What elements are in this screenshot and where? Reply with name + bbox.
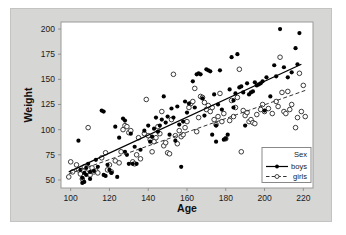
data-point-girls (235, 95, 240, 100)
data-point-boys (191, 79, 195, 83)
data-point-girls (134, 153, 139, 158)
data-point-girls (216, 114, 221, 119)
data-point-girls (253, 121, 258, 126)
data-point-girls (295, 115, 300, 120)
data-point-boys (84, 173, 88, 177)
data-point-girls (227, 118, 232, 123)
data-point-boys (278, 27, 282, 31)
data-point-girls (150, 149, 155, 154)
data-point-girls (239, 149, 244, 154)
data-point-boys (193, 105, 197, 109)
data-point-boys (135, 162, 139, 166)
data-point-boys (109, 171, 113, 175)
data-point-boys (127, 162, 131, 166)
y-tick-label: 125 (41, 99, 55, 109)
y-axis-tick-labels: 5075100125150175200 (41, 24, 55, 185)
data-point-boys (229, 55, 233, 59)
data-point-boys (88, 177, 92, 181)
data-point-boys (262, 108, 266, 112)
data-point-boys (251, 89, 255, 93)
data-point-girls (220, 119, 225, 124)
legend-entry-girls[interactable]: girls (293, 172, 307, 181)
data-point-girls (96, 171, 101, 176)
data-point-boys (220, 107, 224, 111)
y-tick-label: 50 (46, 175, 56, 185)
data-point-girls (237, 67, 242, 72)
legend-entry-boys[interactable]: boys (291, 162, 307, 171)
scatter-plot: 5075100125150175200 10012014016018020022… (0, 0, 346, 235)
data-point-girls (218, 91, 223, 96)
data-point-boys (162, 94, 166, 98)
data-point-girls (303, 114, 308, 119)
data-point-boys (82, 180, 86, 184)
data-point-boys (129, 132, 133, 136)
y-axis-title: Weight (22, 87, 34, 122)
data-point-boys (80, 176, 84, 180)
data-point-boys (167, 133, 171, 137)
data-point-girls (222, 111, 227, 116)
x-axis-title: Age (177, 202, 197, 214)
data-point-boys (103, 174, 107, 178)
data-point-girls (266, 106, 271, 111)
data-point-boys (175, 104, 179, 108)
data-point-girls (181, 132, 186, 137)
data-point-girls (284, 111, 289, 116)
data-point-boys (152, 127, 156, 131)
data-point-girls (160, 109, 165, 114)
data-point-girls (185, 119, 190, 124)
data-point-girls (171, 72, 176, 77)
y-tick-label: 175 (41, 49, 55, 59)
data-point-boys (290, 70, 294, 74)
data-point-girls (289, 102, 294, 107)
data-point-girls (125, 124, 130, 129)
data-point-boys (113, 125, 117, 129)
legend[interactable]: Sex boys girls (262, 148, 311, 183)
data-point-boys (78, 168, 82, 172)
data-point-boys (202, 113, 206, 117)
data-point-girls (66, 175, 71, 180)
x-tick-label: 220 (296, 193, 310, 203)
data-point-boys (146, 124, 150, 128)
data-point-boys (187, 101, 191, 105)
data-point-boys (142, 129, 146, 133)
data-point-boys (102, 109, 106, 113)
data-point-girls (138, 157, 143, 162)
data-point-boys (105, 163, 109, 167)
y-tick-label: 200 (41, 24, 55, 34)
data-point-girls (299, 109, 304, 114)
x-tick-label: 180 (219, 193, 233, 203)
data-point-boys (150, 135, 154, 139)
data-point-girls (144, 97, 149, 102)
data-point-boys (173, 139, 177, 143)
data-point-boys (164, 121, 168, 125)
data-point-boys (268, 94, 272, 98)
data-point-boys (123, 118, 127, 122)
data-point-boys (148, 140, 152, 144)
data-point-girls (276, 104, 281, 109)
data-point-boys (210, 133, 214, 137)
data-point-boys (160, 117, 164, 121)
data-point-boys (212, 92, 216, 96)
data-point-boys (224, 137, 228, 141)
data-point-girls (177, 128, 182, 133)
data-point-boys (208, 69, 212, 73)
data-point-boys (198, 72, 202, 76)
data-point-boys (297, 31, 301, 35)
data-point-boys (166, 114, 170, 118)
data-point-girls (191, 99, 196, 104)
data-point-boys (239, 84, 243, 88)
x-tick-label: 120 (102, 193, 116, 203)
data-point-girls (270, 111, 275, 116)
data-point-boys (243, 124, 247, 128)
legend-girls-marker (275, 175, 279, 179)
data-point-girls (183, 125, 188, 130)
data-point-boys (183, 99, 187, 103)
legend-title: Sex (294, 150, 307, 159)
data-point-girls (286, 89, 291, 94)
data-point-boys (84, 166, 88, 170)
data-point-boys (158, 124, 162, 128)
data-point-boys (177, 123, 181, 127)
data-point-boys (96, 165, 100, 169)
data-point-boys (231, 98, 235, 102)
data-point-girls (194, 129, 199, 134)
